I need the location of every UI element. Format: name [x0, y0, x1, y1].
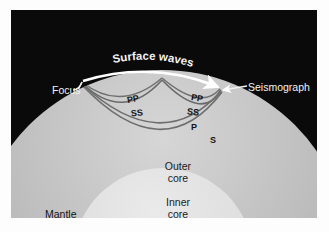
outer-core-label-line1: Outer	[148, 160, 208, 172]
outer-core-label-line2: core	[148, 172, 208, 184]
surface-waves-label: Surface waves	[112, 50, 196, 69]
mantle-label: Mantle	[45, 209, 77, 218]
outer-core-label: Outer core	[148, 160, 208, 184]
inner-core-label-line1: Inner	[152, 196, 204, 208]
wave-label-p: P	[191, 123, 197, 132]
earth-cross-section-svg: Surface waves	[11, 10, 317, 218]
wave-label-ss-left: SS	[131, 108, 144, 118]
surface-waves-textpath: Surface waves	[112, 50, 196, 69]
wave-label-ss-right: SS	[187, 107, 200, 117]
inner-core-label: Inner core	[152, 196, 204, 218]
focus-label: Focus	[52, 85, 81, 96]
wave-label-s: S	[210, 136, 216, 145]
diagram-panel: Surface waves Focus Seismograph Mantle O…	[11, 10, 317, 218]
wave-label-pp-right: PP	[190, 93, 203, 104]
inner-core-label-line2: core	[152, 208, 204, 218]
seismograph-label: Seismograph	[248, 82, 310, 93]
seismic-wave-diagram: Surface waves Focus Seismograph Mantle O…	[0, 0, 329, 232]
